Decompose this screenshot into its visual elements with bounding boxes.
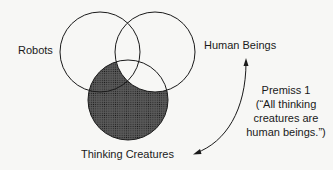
thinking-creatures-label: Thinking Creatures bbox=[81, 148, 174, 161]
arrowhead-up-icon bbox=[244, 58, 249, 66]
robots-label: Robots bbox=[18, 44, 53, 57]
premiss-text-line: creatures are bbox=[236, 111, 333, 125]
human-beings-label: Human Beings bbox=[204, 39, 276, 52]
premiss-text-line: (“All thinking bbox=[236, 97, 333, 111]
premiss-text-line: human beings.”) bbox=[236, 125, 333, 139]
premiss-annotation: Premiss 1 (“All thinking creatures are h… bbox=[236, 83, 333, 139]
arrowhead-down-icon bbox=[193, 149, 202, 155]
premiss-title: Premiss 1 bbox=[236, 83, 333, 97]
